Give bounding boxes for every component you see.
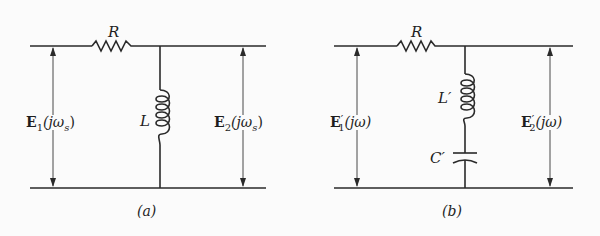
resistor-label: R — [107, 23, 119, 41]
inductor-label: L — [139, 112, 150, 130]
arrowhead-icon — [547, 47, 553, 56]
panel-b-circuit: R L′ C′ E′1(jω) E′2(jω) (b) — [330, 23, 573, 219]
input-voltage-label: E1(jωs) — [26, 114, 75, 133]
input-voltage-label: E′1(jω) — [330, 113, 371, 133]
panel-a-circuit: R L E1(jωs) E2(jωs) (a) — [26, 23, 266, 219]
output-voltage-label: E2(jωs) — [214, 114, 263, 133]
inductor-symbol — [156, 90, 170, 145]
arrowhead-icon — [354, 178, 360, 187]
panel-a-caption: (a) — [137, 203, 156, 219]
arrowhead-icon — [240, 47, 246, 56]
inductor-label: L′ — [437, 89, 452, 107]
capacitor-label: C′ — [430, 149, 445, 167]
panel-b-caption: (b) — [442, 203, 462, 219]
circuit-figure: R L E1(jωs) E2(jωs) (a) R L′ C′ E′1(jω) … — [0, 0, 600, 236]
inductor-symbol — [461, 74, 475, 126]
output-voltage-label: E′2(jω) — [521, 113, 562, 133]
arrowhead-icon — [50, 178, 56, 187]
arrowhead-icon — [354, 47, 360, 56]
resistor-symbol — [92, 41, 134, 51]
resistor-symbol — [397, 41, 437, 51]
resistor-label: R — [410, 23, 422, 41]
arrowhead-icon — [547, 178, 553, 187]
arrowhead-icon — [240, 178, 246, 187]
arrowhead-icon — [50, 47, 56, 56]
